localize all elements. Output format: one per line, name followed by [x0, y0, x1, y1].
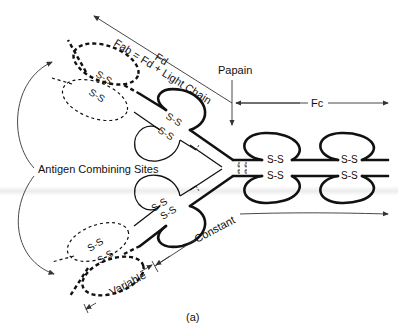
fc-region: S-S S-S S-S S-S	[233, 133, 388, 203]
antigen-site-arrow-upper	[18, 62, 52, 168]
hinge-disulfide-bonds: S S S S	[237, 162, 247, 174]
upper-vl-ss: S-S	[87, 86, 107, 104]
upper-heavy-ss: S-S	[164, 110, 184, 128]
constant-variable-divider-tick	[152, 261, 158, 272]
fc-label: Fc	[311, 97, 324, 109]
lower-heavy-hinge-line	[190, 176, 233, 206]
antigen-site-arrow-lower	[18, 176, 54, 274]
upper-vh-tail	[68, 40, 86, 72]
constant-dimension: Constant	[152, 213, 388, 272]
upper-vl-tail	[52, 78, 72, 84]
variable-label: Variable	[107, 269, 148, 298]
fc-lower-ss-1: S-S	[267, 170, 284, 181]
upper-heavy-chain-segment	[140, 94, 166, 110]
fc-lower-ss-2: S-S	[341, 170, 358, 181]
lower-vh-connector	[124, 246, 140, 254]
constant-arrow-right	[240, 213, 388, 214]
upper-light-ss: S-S	[156, 124, 176, 142]
lower-vh-ss: S-S	[95, 247, 115, 265]
fc-upper-ss-1: S-S	[267, 154, 284, 165]
lower-light-heavy-ss-bond	[196, 186, 199, 191]
panel-label: (a)	[186, 311, 199, 323]
upper-heavy-hinge-line	[190, 130, 233, 160]
variable-dimension: Variable	[84, 265, 152, 313]
lower-light-to-hinge	[180, 186, 196, 196]
constant-label: Constant	[192, 213, 237, 244]
hinge-s-glyph: S	[237, 163, 240, 168]
constant-arrow-left-head	[156, 256, 170, 265]
hinge-s-glyph: S	[244, 163, 247, 168]
papain-label: Papain	[218, 64, 252, 76]
upper-light-chain-segment	[134, 112, 160, 130]
variable-arrow-left	[86, 303, 96, 309]
antibody-diagram: Fd Fab = Fd + Light Chain Papain Fc S-S …	[0, 0, 398, 335]
fab-label: Fab = Fd + Light Chain	[112, 37, 214, 107]
upper-light-heavy-ss-bond	[196, 145, 199, 150]
antigen-combining-sites-label: Antigen Combining Sites	[38, 163, 159, 175]
fc-upper-ss-2: S-S	[341, 154, 358, 165]
hinge-s-glyph: S	[244, 169, 247, 174]
hinge-s-glyph: S	[237, 169, 240, 174]
upper-light-to-hinge	[180, 140, 196, 150]
upper-vh-connector	[122, 84, 140, 94]
lower-fab-light-chain: S-S S-S	[52, 169, 222, 269]
